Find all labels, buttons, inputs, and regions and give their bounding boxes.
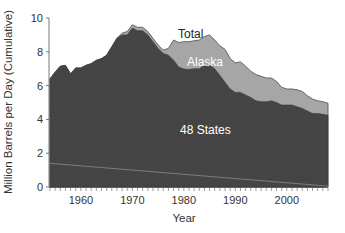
x-tick-label: 1990 [223, 194, 247, 206]
x-axis-title: Year [172, 212, 195, 224]
x-tick-label: 1960 [69, 194, 93, 206]
y-tick-label: 10 [31, 12, 43, 24]
stacked-area-chart: 024681019601970198019902000 Total Alaska… [0, 0, 345, 233]
plot-areas [50, 25, 328, 187]
y-axis-title: Million Barrels per Day (Cumulative) [2, 10, 14, 194]
48-states-label: 48 States [180, 123, 231, 137]
alaska-label: Alaska [187, 55, 223, 69]
total-label: Total [178, 27, 203, 41]
x-tick-label: 2000 [275, 194, 299, 206]
y-tick-label: 6 [37, 80, 43, 92]
x-tick-label: 1970 [120, 194, 144, 206]
x-tick-label: 1980 [172, 194, 196, 206]
y-tick-label: 2 [37, 147, 43, 159]
y-tick-label: 0 [37, 181, 43, 193]
y-tick-label: 4 [37, 113, 43, 125]
y-tick-label: 8 [37, 46, 43, 58]
